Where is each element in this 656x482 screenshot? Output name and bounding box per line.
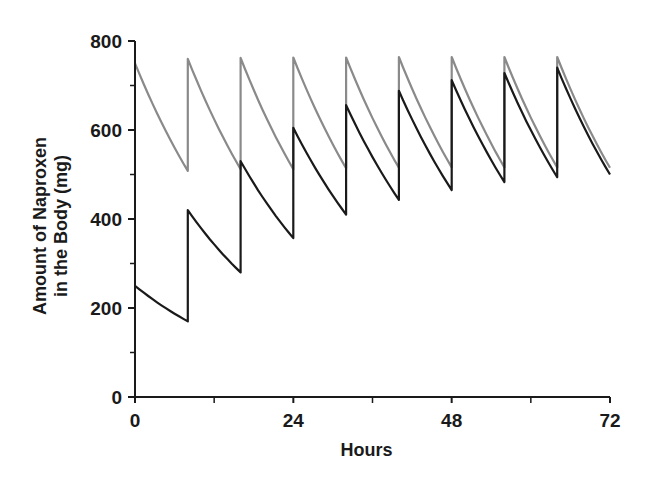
y-tick-label: 0 — [111, 387, 122, 408]
x-tick-label: 72 — [599, 410, 620, 431]
series-gray-line — [135, 57, 610, 171]
y-tick-label: 400 — [90, 209, 122, 230]
naproxen-chart: 0244872 0200400600800 Hours Amount of Na… — [0, 0, 656, 482]
x-tick-label: 24 — [283, 410, 305, 431]
y-tick-label: 600 — [90, 120, 122, 141]
y-ticks: 0200400600800 — [90, 31, 135, 408]
y-axis-title-line-1: Amount of Naproxen — [30, 137, 50, 315]
y-tick-label: 200 — [90, 298, 122, 319]
series-black-line — [135, 68, 610, 322]
x-axis-title: Hours — [340, 440, 392, 460]
y-axis-title-line-2: in the Body (mg) — [51, 155, 71, 297]
series-layer — [135, 57, 610, 321]
y-tick-label: 800 — [90, 31, 122, 52]
x-tick-label: 0 — [130, 410, 141, 431]
axes: 0244872 0200400600800 — [90, 31, 620, 431]
y-axis-title: Amount of Naproxen in the Body (mg) — [30, 137, 71, 315]
x-ticks: 0244872 — [130, 397, 621, 431]
x-tick-label: 48 — [441, 410, 462, 431]
